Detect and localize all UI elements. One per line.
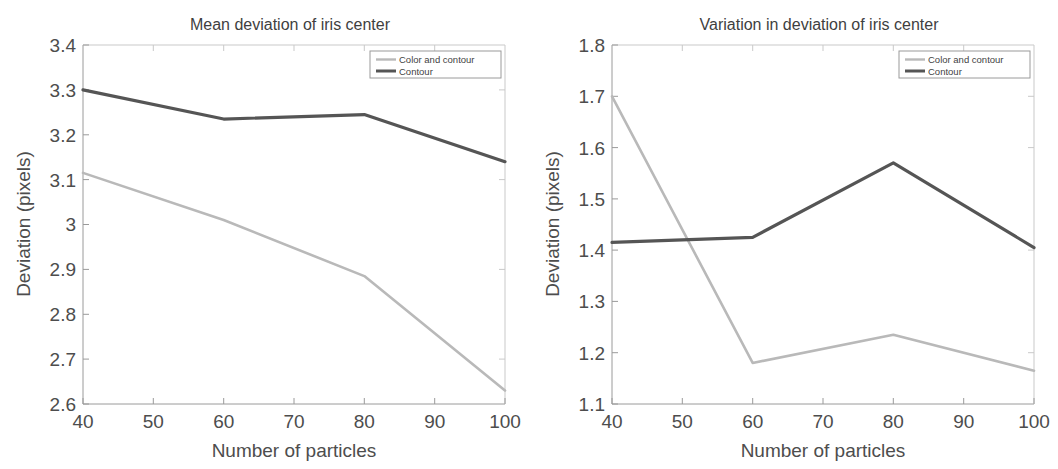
right-xtick-5: 90 (953, 411, 974, 432)
right-xtick-0: 40 (601, 411, 622, 432)
right-legend-label-color-and-contour: Color and contour (928, 54, 1004, 65)
right-xtick-1: 50 (672, 411, 693, 432)
left-xtick-4: 80 (354, 411, 375, 432)
right-ytick-3: 1.4 (579, 240, 606, 261)
left-xtick-6: 100 (489, 411, 521, 432)
left-ytick-5: 3.1 (50, 170, 76, 191)
left-series-color-and-contour (83, 173, 505, 391)
right-chart-svg: Variation in deviation of iris center (529, 0, 1058, 469)
figure-container: Mean deviation of iris center (0, 0, 1058, 469)
right-y-axis-label: Deviation (pixels) (542, 151, 563, 297)
left-x-axis-label: Number of particles (212, 440, 377, 461)
right-chart-title: Variation in deviation of iris center (700, 16, 940, 33)
right-xtick-2: 60 (742, 411, 763, 432)
left-xtick-2: 60 (213, 411, 234, 432)
chart-panel-mean-deviation: Mean deviation of iris center (0, 0, 529, 469)
right-series-color-and-contour (612, 96, 1034, 370)
left-xtick-3: 70 (283, 411, 304, 432)
right-ytick-2: 1.3 (579, 291, 605, 312)
left-series-contour (83, 90, 505, 162)
left-ytick-8: 3.4 (50, 35, 77, 56)
right-xtick-3: 70 (812, 411, 833, 432)
left-legend-label-color-and-contour: Color and contour (399, 54, 475, 65)
left-ytick-7: 3.3 (50, 80, 76, 101)
left-x-ticks (83, 45, 505, 404)
left-ytick-3: 2.9 (50, 259, 76, 280)
left-xtick-0: 40 (72, 411, 93, 432)
left-xtick-5: 90 (424, 411, 445, 432)
right-series-contour (612, 163, 1034, 248)
left-y-ticks (83, 45, 505, 404)
right-ytick-6: 1.7 (579, 86, 605, 107)
left-legend: Color and contour Contour (370, 51, 501, 78)
left-ytick-4: 3 (65, 214, 76, 235)
left-ytick-1: 2.7 (50, 349, 76, 370)
chart-panel-variation-deviation: Variation in deviation of iris center (529, 0, 1058, 469)
left-legend-label-contour: Contour (399, 66, 433, 77)
right-ytick-4: 1.5 (579, 189, 605, 210)
left-chart-title: Mean deviation of iris center (190, 16, 391, 33)
left-chart-svg: Mean deviation of iris center (0, 0, 529, 469)
left-axes-frame (83, 45, 505, 404)
right-xtick-4: 80 (883, 411, 904, 432)
left-ytick-6: 3.2 (50, 125, 76, 146)
left-y-axis-label: Deviation (pixels) (13, 151, 34, 297)
right-ytick-5: 1.6 (579, 138, 605, 159)
right-legend: Color and contour Contour (899, 51, 1030, 78)
left-ytick-2: 2.8 (50, 304, 76, 325)
right-legend-label-contour: Contour (928, 66, 962, 77)
left-xtick-1: 50 (143, 411, 164, 432)
right-ytick-7: 1.8 (579, 35, 605, 56)
right-ytick-1: 1.2 (579, 343, 605, 364)
right-x-axis-label: Number of particles (741, 440, 906, 461)
right-xtick-6: 100 (1018, 411, 1050, 432)
